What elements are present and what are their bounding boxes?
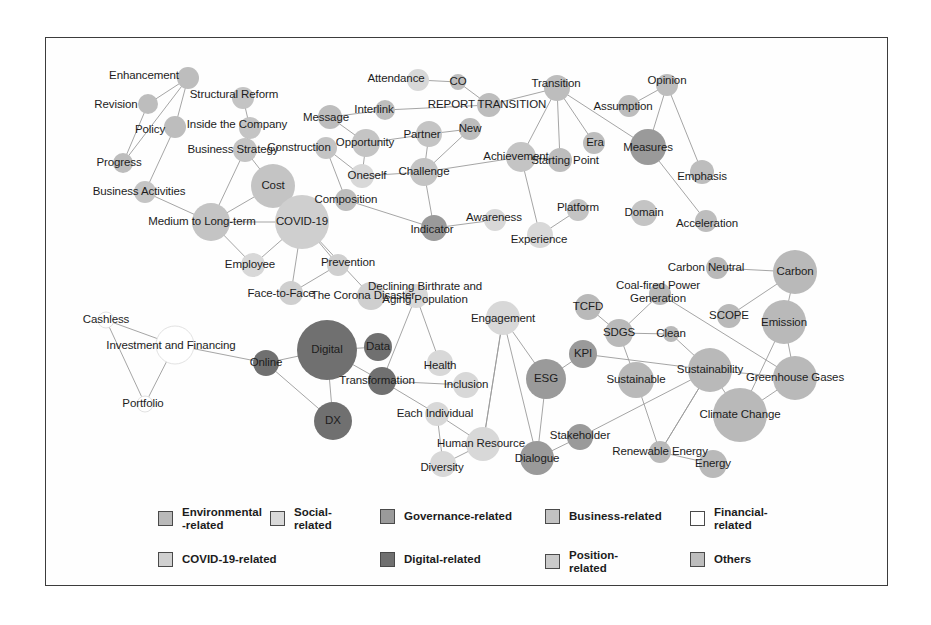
legend-label-covid: COVID-19-related: [182, 553, 277, 566]
legend-label-social: Social- related: [294, 506, 332, 531]
legend-swatch-others: [690, 552, 705, 567]
legend-swatch-social: [270, 511, 285, 526]
legend-item-environmental: Environmental -related: [158, 506, 262, 531]
legend-label-digital: Digital-related: [404, 553, 481, 566]
legend-swatch-financial: [690, 511, 705, 526]
legend-item-business: Business-related: [545, 509, 662, 524]
legend-item-social: Social- related: [270, 506, 332, 531]
legend: Environmental -relatedSocial- relatedGov…: [0, 0, 931, 625]
legend-item-digital: Digital-related: [380, 552, 481, 567]
legend-swatch-position: [545, 554, 560, 569]
legend-item-financial: Financial- related: [690, 506, 768, 531]
legend-swatch-governance: [380, 509, 395, 524]
legend-swatch-digital: [380, 552, 395, 567]
legend-label-governance: Governance-related: [404, 510, 512, 523]
legend-label-environmental: Environmental -related: [182, 506, 262, 531]
legend-swatch-covid: [158, 552, 173, 567]
legend-swatch-environmental: [158, 511, 173, 526]
legend-item-position: Position- related: [545, 549, 618, 574]
figure-canvas: EnhancementRevisionStructural ReformPoli…: [0, 0, 931, 625]
legend-swatch-business: [545, 509, 560, 524]
legend-label-position: Position- related: [569, 549, 618, 574]
legend-label-financial: Financial- related: [714, 506, 768, 531]
legend-item-governance: Governance-related: [380, 509, 512, 524]
legend-label-business: Business-related: [569, 510, 662, 523]
legend-item-others: Others: [690, 552, 751, 567]
legend-item-covid: COVID-19-related: [158, 552, 277, 567]
legend-label-others: Others: [714, 553, 751, 566]
